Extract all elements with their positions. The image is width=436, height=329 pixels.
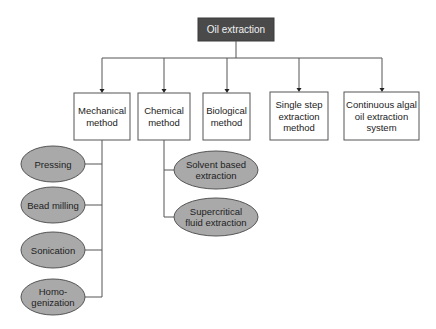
subtype-label: Homo-	[39, 286, 68, 297]
method-node-chemical: Chemicalmethod	[138, 58, 190, 140]
arrowhead-icon	[297, 88, 302, 92]
method-label: method	[211, 117, 243, 128]
subtype-label: genization	[31, 297, 74, 308]
method-label: oil extraction	[355, 111, 408, 122]
subtype-label: fluid extraction	[185, 217, 246, 228]
subtype-label: Supercritical	[190, 206, 242, 217]
method-label: Continuous algal	[346, 99, 417, 110]
method-label: Biological	[206, 105, 247, 116]
arrowhead-icon	[225, 89, 230, 93]
method-label: extraction	[278, 111, 319, 122]
arrowhead-icon	[100, 89, 105, 93]
subtype-label: Sonication	[31, 245, 75, 256]
method-label: method	[283, 122, 315, 133]
method-nodes: MechanicalmethodChemicalmethodBiological…	[74, 58, 419, 140]
chemical-subtypes: Solvent basedextractionSupercriticalflui…	[164, 140, 258, 236]
oil-extraction-diagram: Oil extraction MechanicalmethodChemicalm…	[0, 0, 436, 329]
root-node: Oil extraction	[198, 18, 274, 41]
method-node-mechanical: Mechanicalmethod	[74, 58, 130, 140]
method-node-single-step: Single stepextractionmethod	[270, 58, 328, 140]
root-connectors	[102, 41, 382, 58]
chemical-subtype-node: Solvent basedextraction	[164, 151, 258, 189]
mechanical-subtype-node: Pressing	[21, 146, 102, 182]
method-label: method	[148, 117, 180, 128]
method-label: system	[366, 122, 396, 133]
mechanical-subtype-node: Bead milling	[21, 187, 102, 223]
subtype-label: Pressing	[35, 159, 72, 170]
subtype-label: Bead milling	[27, 200, 79, 211]
method-node-continuous: Continuous algaloil extractionsystem	[344, 58, 419, 140]
arrowhead-icon	[162, 89, 167, 93]
method-label: Single step	[275, 99, 322, 110]
root-label: Oil extraction	[207, 24, 265, 35]
chemical-subtype-node: Supercriticalfluid extraction	[164, 198, 258, 236]
arrowhead-icon	[380, 88, 385, 92]
mechanical-subtype-node: Homo-genization	[21, 279, 102, 315]
subtype-label: Solvent based	[186, 159, 246, 170]
method-node-biological: Biologicalmethod	[203, 58, 250, 140]
mechanical-subtype-node: Sonication	[21, 232, 102, 268]
mechanical-subtypes: PressingBead millingSonicationHomo-geniz…	[21, 140, 102, 315]
method-label: method	[86, 117, 118, 128]
subtype-label: extraction	[195, 170, 236, 181]
method-label: Chemical	[144, 105, 184, 116]
method-label: Mechanical	[78, 105, 126, 116]
